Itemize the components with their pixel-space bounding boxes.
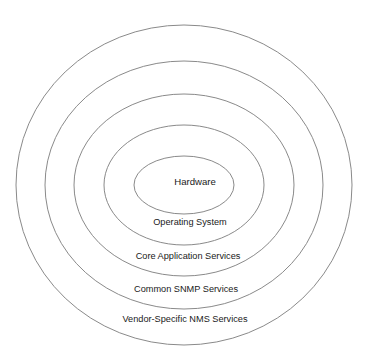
- layered-services-diagram: Hardware Operating System Core Applicati…: [0, 0, 384, 360]
- label-core-application-services: Core Application Services: [136, 251, 241, 261]
- label-vendor-specific-nms-services: Vendor-Specific NMS Services: [122, 314, 248, 324]
- label-operating-system: Operating System: [153, 217, 227, 227]
- concentric-rings-svg: Hardware Operating System Core Applicati…: [0, 0, 384, 360]
- label-common-snmp-services: Common SNMP Services: [134, 284, 238, 294]
- label-hardware: Hardware: [174, 176, 216, 187]
